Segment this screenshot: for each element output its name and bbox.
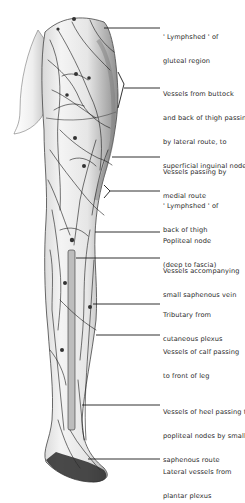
label-line: ' Lymphshed ' of <box>163 202 218 210</box>
leg-silhouette <box>42 18 118 482</box>
label-line: Tributary from <box>163 311 223 319</box>
hip-outline <box>14 30 45 134</box>
label-line: to front of leg <box>163 372 239 380</box>
label-line: by lateral route, to <box>163 138 245 146</box>
label-line: Vessels of heel passing to <box>163 408 245 416</box>
label-lymphshed-gluteal: ' Lymphshed ' of gluteal region <box>163 17 218 73</box>
label-line: Vessels accompanying <box>163 267 240 275</box>
label-line: popliteal nodes by small <box>163 432 245 440</box>
label-line: Vessels of calf passing <box>163 348 239 356</box>
label-line: ' Lymphshed ' of <box>163 33 218 41</box>
label-lateral-plantar: Lateral vessels from plantar plexus <box>163 452 232 503</box>
label-line: and back of thigh passing, <box>163 114 245 122</box>
label-line: Vessels from buttock <box>163 90 245 98</box>
label-line: Vessels passing by <box>163 168 227 176</box>
label-line: Popliteal node <box>163 237 216 245</box>
label-calf-front: Vessels of calf passing to front of leg <box>163 332 239 388</box>
small-saphenous-vein <box>68 250 75 430</box>
label-line: Lateral vessels from <box>163 468 232 476</box>
label-line: gluteal region <box>163 57 218 65</box>
label-line: plantar plexus <box>163 492 232 500</box>
